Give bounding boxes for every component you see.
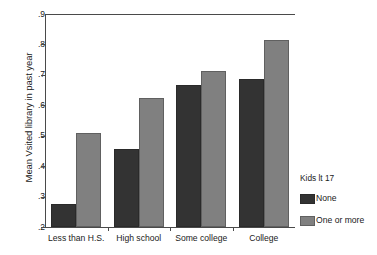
y-tick-label: .9 [26, 9, 45, 20]
bar-none [114, 149, 139, 227]
x-tick-mark [233, 227, 234, 231]
bar-one-or-more [139, 98, 164, 227]
bar-none [239, 79, 264, 227]
legend-item: One or more [300, 215, 377, 226]
bar-one-or-more [201, 71, 226, 227]
bar-none [51, 204, 76, 227]
legend-swatch-icon [300, 194, 315, 204]
legend-entries: NoneOne or more [300, 193, 377, 226]
bar-none [176, 85, 201, 227]
legend-title: Kids lt 17 [300, 173, 377, 184]
legend-item: None [300, 193, 377, 204]
legend-item-label: One or more [316, 215, 364, 226]
bar-one-or-more [264, 40, 289, 227]
legend: Kids lt 17 NoneOne or more [300, 173, 377, 237]
bar-one-or-more [76, 133, 101, 227]
bars-layer [45, 14, 295, 227]
y-tick-mark [41, 227, 45, 228]
bar-chart-figure: Mean Vsited library in past year .9.8.7.… [0, 0, 377, 255]
x-tick-mark [108, 227, 109, 231]
legend-item-label: None [316, 193, 337, 204]
x-category-label: College [219, 232, 309, 244]
legend-swatch-icon [300, 216, 315, 226]
x-tick-mark [170, 227, 171, 231]
